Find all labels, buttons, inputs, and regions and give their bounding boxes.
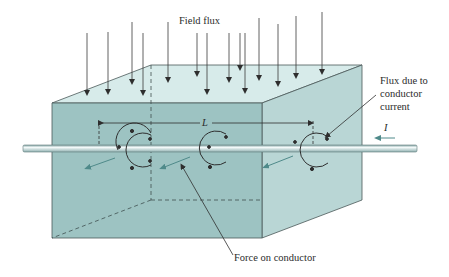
flux-due-label-line2: conductor [380,88,422,100]
current-symbol-label: I [384,122,388,134]
length-symbol-label: L [202,117,208,129]
motor-force-diagram [0,0,449,277]
force-on-conductor-label: Force on conductor [234,252,316,264]
conductor-rod [23,145,417,152]
flux-due-label-line3: current [380,101,410,113]
field-flux-label: Field flux [179,15,220,27]
flux-due-label-line1: Flux due to [380,75,428,87]
conductor [23,145,417,152]
